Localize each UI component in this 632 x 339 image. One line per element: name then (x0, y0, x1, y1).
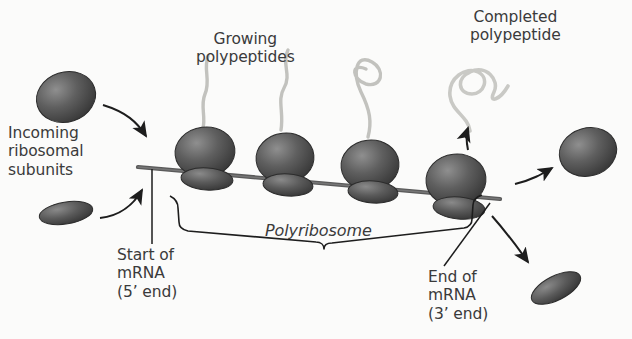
label-growing-polypeptides: Growing polypeptides (196, 30, 295, 67)
figure-canvas: Incoming ribosomal subunits Growing poly… (0, 0, 632, 339)
polypeptide-chain-3 (355, 60, 381, 137)
polypeptide-chain-1 (203, 56, 208, 128)
ribosome-3 (339, 60, 402, 205)
arrow-large-subunit-join (103, 105, 146, 136)
arrow-polypeptide-release (467, 128, 469, 150)
arrow-small-subunit-join (100, 190, 142, 218)
label-end-of-mrna: End of mRNA (3’ end) (428, 268, 488, 323)
label-incoming-ribosomal-subunits: Incoming ribosomal subunits (8, 124, 84, 179)
label-start-of-mrna: Start of mRNA (5’ end) (117, 246, 177, 301)
small-subunit-released (526, 265, 585, 311)
small-subunit-incoming (38, 198, 95, 228)
ribosome-2 (254, 50, 317, 198)
arrow-large-subunit-release (515, 168, 552, 184)
large-subunit-incoming (30, 64, 103, 130)
completed-polypeptide (450, 70, 508, 131)
polyribosome-diagram (0, 0, 632, 339)
arrow-small-subunit-release (492, 216, 528, 262)
ribosome-4 (423, 151, 488, 221)
label-completed-polypeptide: Completed polypeptide (470, 8, 561, 45)
large-subunit-released (554, 121, 623, 183)
label-polyribosome: Polyribosome (265, 222, 372, 241)
